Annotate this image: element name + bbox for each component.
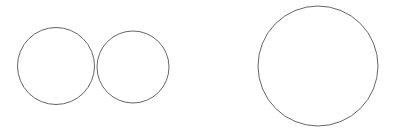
drawing-canvas <box>0 0 395 129</box>
shape-canvas-svg <box>0 0 395 129</box>
canvas-background <box>0 0 395 129</box>
